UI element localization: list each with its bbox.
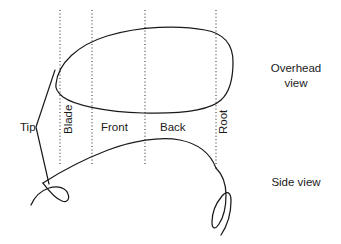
region-label-tip: Tip — [20, 121, 36, 133]
region-label-front: Front — [101, 121, 129, 133]
overhead-view-label-line2: view — [284, 77, 308, 89]
guide-line-group — [60, 10, 216, 166]
side-view-label: Side view — [271, 176, 321, 188]
region-label-blade: Blade — [62, 105, 74, 134]
overhead-view-outline — [56, 27, 233, 113]
region-label-root: Root — [217, 109, 229, 134]
side-view-root-loop — [212, 168, 231, 235]
tip-bracket — [36, 70, 55, 184]
region-label-back: Back — [160, 121, 186, 133]
feather-diagram: Tip Blade Front Back Root Overhead view … — [0, 0, 341, 244]
side-view-shaft — [43, 139, 216, 183]
side-view-tip-hook — [31, 183, 69, 205]
overhead-view-label-line1: Overhead — [271, 62, 322, 74]
diagram-canvas: Tip Blade Front Back Root Overhead view … — [0, 0, 341, 244]
